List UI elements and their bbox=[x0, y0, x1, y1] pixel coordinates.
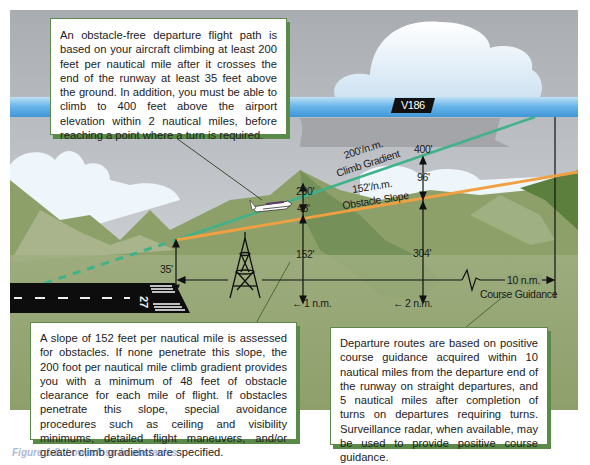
cloud-shadow bbox=[300, 118, 510, 147]
two-nm-clearance-label: 96' bbox=[417, 171, 430, 183]
obstacle-slope-text: A slope of 152 feet per nautical mile is… bbox=[40, 331, 287, 460]
ten-nm-distance-label: 10 n.m. bbox=[505, 274, 542, 286]
departure-path-callout: An obstacle-free departure flight path i… bbox=[50, 18, 287, 135]
departure-path-text: An obstacle-free departure flight path i… bbox=[60, 28, 277, 142]
course-guidance-label: Course Guidance bbox=[480, 288, 557, 300]
one-nm-altitude-label: 200' bbox=[296, 185, 314, 197]
course-guidance-text: Departure routes are based on positive c… bbox=[340, 336, 538, 465]
one-nm-obstacle-label: 152' bbox=[296, 248, 314, 260]
two-nm-obstacle-label: 304' bbox=[413, 247, 431, 259]
airway-label: V186 bbox=[391, 98, 435, 113]
one-nm-clearance-label: 48' bbox=[297, 202, 310, 214]
two-nm-altitude-label: 400' bbox=[414, 143, 432, 155]
figure-caption: Figure 1-8. Low, close-in obstacles bbox=[12, 447, 177, 458]
one-nm-distance-label: ← 1 n.m. bbox=[292, 297, 331, 309]
runway: 27 bbox=[10, 283, 190, 313]
runway-end-height-label: 35' bbox=[160, 263, 173, 275]
two-nm-distance-label: ← 2 n.m. bbox=[393, 297, 432, 309]
course-guidance-callout: Departure routes are based on positive c… bbox=[330, 327, 548, 445]
one-nm-text: 1 n.m. bbox=[304, 297, 331, 309]
two-nm-text: 2 n.m. bbox=[405, 297, 432, 309]
runway-number: 27 bbox=[138, 296, 150, 308]
obstacle-slope-callout: A slope of 152 feet per nautical mile is… bbox=[30, 322, 297, 440]
